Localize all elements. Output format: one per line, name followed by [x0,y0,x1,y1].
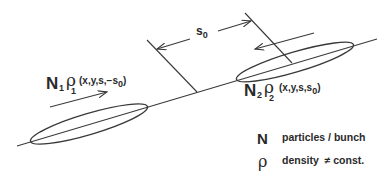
separation-arrow-right [218,21,251,31]
legend-symbol-rho: ρ [258,152,267,171]
bunch-1-label: N 1 ρ 1 (x,y,s,−s0) [46,70,126,96]
separation-tick-right [245,13,292,63]
svg-text:N: N [46,74,58,93]
bunch-1-ellipse [28,97,151,152]
separation-tick-left [147,40,197,92]
bunch-2-label: N 2 ρ 2 (x,y,s,s0) [244,77,321,103]
bunch-2-direction-arrow [255,33,314,49]
legend-text-rho: density ≠ const. [282,154,364,166]
svg-text:(x,y,s,s0): (x,y,s,s0) [279,82,321,96]
svg-text:2: 2 [257,90,262,100]
svg-text:1: 1 [71,86,76,96]
svg-text:N: N [244,81,256,100]
svg-text:2: 2 [269,93,274,103]
bunch-1-direction-arrow [50,92,107,107]
beam-beam-diagram: s0 N 1 ρ 1 (x,y,s,−s0) N 2 ρ 2 (x,y,s,s0… [0,0,391,181]
legend: N particles / bunch ρ density ≠ const. [257,130,365,171]
svg-text:(x,y,s,−s0): (x,y,s,−s0) [79,75,126,89]
legend-symbol-n: N [257,130,268,147]
separation-arrow-left [157,39,190,49]
legend-text-n: particles / bunch [282,131,365,143]
separation-label: s0 [196,24,208,40]
svg-text:1: 1 [59,83,64,93]
